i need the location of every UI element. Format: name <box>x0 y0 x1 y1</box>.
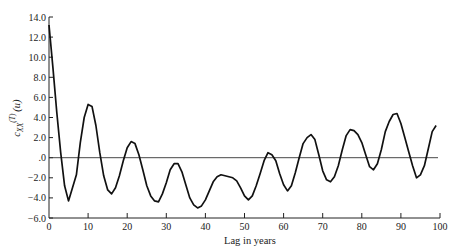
x-tick-label: 0 <box>47 221 52 232</box>
x-axis-label: Lag in years <box>224 235 276 246</box>
x-tick-label: 60 <box>279 221 289 232</box>
y-label-sup: (T) <box>8 113 17 123</box>
x-tick-label: 70 <box>318 221 328 232</box>
x-tick-label: 40 <box>200 221 210 232</box>
y-tick-label: 2.0 <box>34 132 47 143</box>
y-tick-label: −6.0 <box>28 213 46 224</box>
x-axis: 0102030405060708090100 <box>47 213 448 232</box>
x-tick-label: 50 <box>240 221 250 232</box>
x-tick-label: 100 <box>433 221 448 232</box>
y-tick-label: 14.0 <box>29 12 47 23</box>
y-tick-label: −4.0 <box>28 192 46 203</box>
y-tick-label: 8.0 <box>34 72 47 83</box>
y-tick-label: 10.0 <box>29 52 47 63</box>
y-axis: −6.0−4.0−2.0.02.04.06.08.010.012.014.0 <box>28 12 53 224</box>
svg-text:cXX(T)(u): cXX(T)(u) <box>8 99 25 137</box>
y-label-sub: XX <box>16 122 25 133</box>
x-tick-label: 30 <box>161 221 171 232</box>
y-tick-label: 4.0 <box>34 112 47 123</box>
x-tick-label: 80 <box>357 221 367 232</box>
x-tick-label: 10 <box>83 221 93 232</box>
y-axis-label: cXX(T)(u) <box>8 99 25 137</box>
autocovariance-chart: −6.0−4.0−2.0.02.04.06.08.010.012.014.0 0… <box>0 0 455 250</box>
y-tick-label: 6.0 <box>34 92 47 103</box>
x-tick-label: 20 <box>122 221 132 232</box>
x-tick-label: 90 <box>396 221 406 232</box>
y-tick-label: −2.0 <box>28 172 46 183</box>
y-tick-label: .0 <box>39 152 47 163</box>
y-label-arg: (u) <box>11 99 23 112</box>
y-tick-label: 12.0 <box>29 32 47 43</box>
autocovariance-series-line <box>49 25 436 208</box>
